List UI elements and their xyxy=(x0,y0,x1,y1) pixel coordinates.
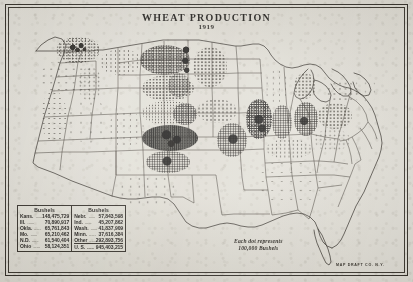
wheat-production-map-page: WHEAT PRODUCTION 1919 xyxy=(0,0,413,282)
map-frame-inner xyxy=(8,7,405,273)
